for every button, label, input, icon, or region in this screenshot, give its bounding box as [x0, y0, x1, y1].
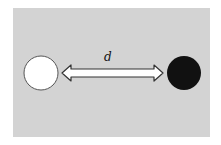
double-arrow-icon	[62, 65, 163, 81]
diagram-graphic	[0, 0, 221, 145]
white-circle	[24, 56, 58, 90]
black-circle	[167, 56, 201, 90]
distance-label: d	[104, 50, 112, 64]
